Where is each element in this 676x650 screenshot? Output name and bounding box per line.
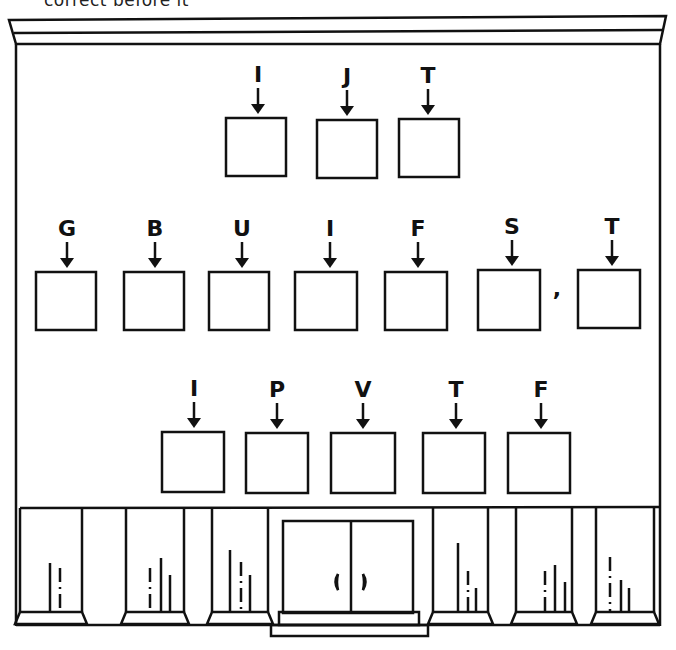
clue-letter: B xyxy=(147,216,164,241)
clue-row3-2: V xyxy=(331,377,395,493)
clue-row2-5: S xyxy=(478,214,540,330)
clue-letter: F xyxy=(533,377,548,402)
clue-row3-4: F xyxy=(508,377,570,493)
building-puzzle-illustration: IJTGBUIFSTIPVTF, xyxy=(0,0,676,650)
clue-row2-4: F xyxy=(385,216,447,330)
answer-box[interactable] xyxy=(508,433,570,493)
clue-row2-6: T xyxy=(578,214,640,328)
answer-box[interactable] xyxy=(162,432,224,492)
clue-letter: G xyxy=(58,216,76,241)
clue-row2-3: I xyxy=(295,216,357,330)
answer-box[interactable] xyxy=(246,433,308,493)
clue-row3-1: P xyxy=(246,377,308,493)
clue-row1-0: I xyxy=(226,62,286,176)
clue-row2-1: B xyxy=(124,216,184,330)
clue-row2-2: U xyxy=(209,216,269,330)
clue-letter: T xyxy=(604,214,619,239)
answer-box[interactable] xyxy=(295,272,357,330)
clue-letter: T xyxy=(448,377,463,402)
answer-box[interactable] xyxy=(226,118,286,176)
clue-letter: U xyxy=(233,216,251,241)
answer-box[interactable] xyxy=(423,433,485,493)
answer-box[interactable] xyxy=(578,270,640,328)
clue-letter: F xyxy=(410,216,425,241)
answer-box[interactable] xyxy=(478,270,540,330)
clue-row3-3: T xyxy=(423,377,485,493)
answer-box[interactable] xyxy=(317,120,377,178)
clue-letter: P xyxy=(269,377,285,402)
clue-letter: I xyxy=(254,62,262,87)
clue-row2-0: G xyxy=(36,216,96,330)
clue-letter: V xyxy=(354,377,371,402)
clue-row1-1: J xyxy=(317,64,377,178)
clue-letter: S xyxy=(504,214,520,239)
answer-box[interactable] xyxy=(399,119,459,177)
clue-row1-2: T xyxy=(399,63,459,177)
comma-mark: , xyxy=(553,276,561,301)
clue-letter: T xyxy=(420,63,435,88)
answer-box[interactable] xyxy=(209,272,269,330)
answer-box[interactable] xyxy=(385,272,447,330)
clue-row3-0: I xyxy=(162,376,224,492)
entrance-doors xyxy=(271,521,428,636)
clue-letter: I xyxy=(326,216,334,241)
storefront-windows xyxy=(15,508,659,624)
answer-box[interactable] xyxy=(124,272,184,330)
clue-letter: J xyxy=(341,64,351,89)
answer-box[interactable] xyxy=(36,272,96,330)
answer-box[interactable] xyxy=(331,433,395,493)
clue-letter: I xyxy=(190,376,198,401)
answer-boxes: IJTGBUIFSTIPVTF, xyxy=(36,62,640,493)
